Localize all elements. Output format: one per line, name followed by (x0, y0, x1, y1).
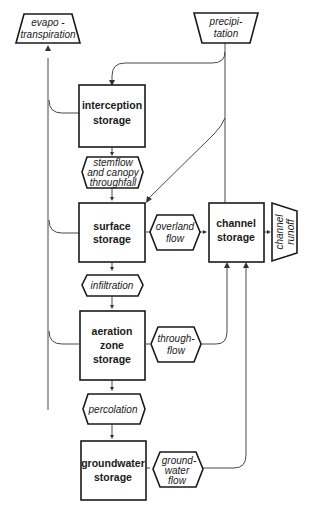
arrowhead (146, 196, 152, 203)
arrowhead (110, 197, 114, 201)
arrowhead (203, 230, 207, 234)
evapotranspiration-label-1: evapo - (31, 17, 65, 28)
surface-label-1: surface (93, 220, 131, 232)
evapotranspiration-label-2: transpiration (20, 29, 75, 40)
percolation-hexagon: percolation (83, 394, 145, 424)
arrowhead (224, 262, 230, 268)
groundwater-label-1: groundwater (81, 457, 145, 469)
hydrological-cycle-diagram: evapo - transpiration precipi- tation ch… (0, 0, 318, 516)
precipitation-label-2: tation (214, 28, 239, 39)
stemflow-label-3: throughfall (90, 177, 137, 188)
surface-label-2: storage (93, 233, 131, 245)
aeration-label-3: storage (93, 353, 131, 365)
evapotranspiration-output: evapo - transpiration (16, 14, 80, 43)
surface-to-evap-line (49, 220, 79, 233)
groundwater-storage-box: groundwater storage (81, 441, 146, 500)
aeration-label-2: zone (100, 339, 124, 351)
interception-to-evap-line (49, 100, 79, 113)
precipitation-to-interception-line (112, 52, 225, 81)
channel-runoff-label-2: runoff (285, 218, 296, 245)
surface-storage-box: surface storage (79, 203, 145, 262)
precipitation-label-1: precipi- (209, 16, 243, 27)
arrowhead (243, 262, 249, 268)
arrowhead (267, 230, 271, 234)
arrowhead (45, 45, 51, 51)
groundwater-label-2: storage (94, 471, 132, 483)
arrowhead (110, 267, 114, 271)
channel-runoff-label-1: channel (274, 214, 285, 250)
infiltration-label: infiltration (91, 280, 134, 291)
precipitation-to-surface-line (149, 118, 225, 198)
gwflow-label-3: flow (168, 475, 187, 486)
arrowhead (110, 305, 114, 309)
stemflow-hexagon: stemflow and canopy throughfall (82, 157, 143, 188)
aeration-label-1: aeration (92, 325, 133, 337)
channel-label-2: storage (217, 231, 255, 243)
channel-label-1: channel (216, 217, 256, 229)
interception-label-2: storage (93, 114, 131, 126)
gwflow-to-channel-line (203, 268, 246, 468)
groundwater-flow-hexagon: ground- water flow (153, 452, 203, 487)
arrowhead (110, 387, 114, 391)
throughflow-to-channel-line (200, 268, 227, 344)
overland-flow-hexagon: overland flow (150, 215, 200, 250)
throughflow-hexagon: through- flow (151, 327, 201, 362)
infiltration-hexagon: infiltration (82, 275, 143, 296)
interception-label-1: interception (82, 99, 142, 111)
arrowhead (110, 152, 114, 156)
channel-storage-box: channel storage (209, 203, 264, 262)
overland-label-2: flow (166, 233, 185, 244)
aeration-to-evap-line (49, 331, 79, 344)
overland-label-1: overland (156, 221, 195, 232)
throughflow-label-2: flow (167, 345, 186, 356)
percolation-label: percolation (88, 404, 138, 415)
aeration-zone-storage-box: aeration zone storage (80, 311, 145, 380)
throughflow-label-1: through- (157, 333, 195, 344)
channel-runoff-output: channel runoff (272, 203, 297, 261)
arrowhead (110, 435, 114, 439)
interception-storage-box: interception storage (79, 85, 145, 147)
precipitation-input: precipi- tation (194, 13, 258, 43)
